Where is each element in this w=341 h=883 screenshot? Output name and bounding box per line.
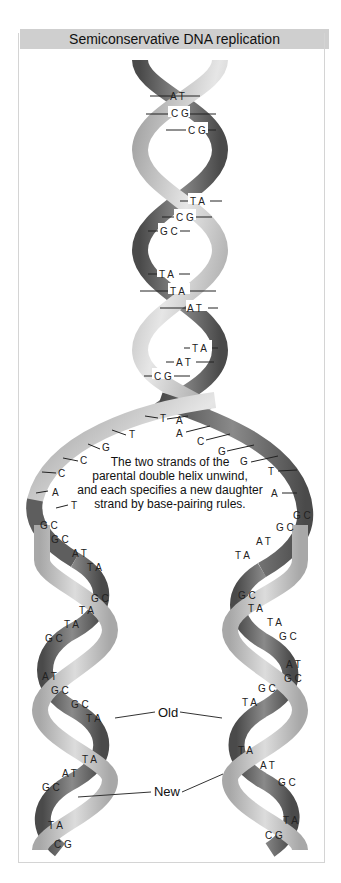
left-daughter-helix: G C G C A T T A G C T A T A G C A T G C … bbox=[40, 520, 110, 850]
base-pair: A T bbox=[170, 91, 185, 102]
base-pair: T A bbox=[86, 713, 101, 724]
base-pair: T A bbox=[248, 603, 263, 614]
base-pair: T A bbox=[48, 820, 63, 831]
base-pair: G C bbox=[160, 226, 178, 237]
base-pair: T A bbox=[87, 562, 102, 573]
base-pair: A T bbox=[256, 536, 271, 547]
base-pair: T A bbox=[64, 619, 79, 630]
base: C bbox=[80, 455, 87, 466]
base-pair: A T bbox=[62, 768, 77, 779]
parental-helix: A T C G C G T A C G G C T A T A A T bbox=[140, 60, 222, 410]
base-pair: T A bbox=[170, 286, 185, 297]
caption-line: The two strands of the bbox=[111, 455, 230, 469]
base-pair: C G bbox=[176, 212, 194, 223]
base-pair: G C bbox=[284, 673, 302, 684]
new-strand-label: New bbox=[154, 784, 181, 799]
base-pair: G C bbox=[258, 683, 276, 694]
base-pair: A T bbox=[72, 548, 87, 559]
base-pair: A T bbox=[176, 357, 191, 368]
base-pair: C G bbox=[54, 839, 72, 850]
base-pair: G C bbox=[51, 685, 69, 696]
base: T bbox=[71, 500, 77, 511]
base-pair: C G bbox=[171, 108, 189, 119]
base-pair: T A bbox=[267, 617, 282, 628]
caption-line: parental double helix unwind, bbox=[92, 469, 247, 483]
base: G bbox=[240, 456, 248, 467]
base-pair: T A bbox=[235, 550, 250, 561]
base-pair: A T bbox=[187, 303, 202, 314]
base: A bbox=[176, 415, 183, 426]
base-pair: G C bbox=[40, 520, 58, 531]
base-pair: G C bbox=[42, 782, 60, 793]
base: C bbox=[58, 468, 65, 479]
base: A bbox=[176, 428, 183, 439]
base-pair: G C bbox=[238, 590, 256, 601]
base-pair: C G bbox=[154, 371, 172, 382]
base: T bbox=[160, 413, 166, 424]
base: G bbox=[102, 442, 110, 453]
base-pair: T A bbox=[238, 745, 253, 756]
base-pair: T A bbox=[242, 697, 257, 708]
fork-caption: The two strands of the parental double h… bbox=[77, 455, 262, 511]
base-pair: A T bbox=[42, 671, 57, 682]
base-pair: G C bbox=[293, 510, 311, 521]
caption-line: strand by base-pairing rules. bbox=[94, 497, 245, 511]
base-pair: G C bbox=[276, 522, 294, 533]
base: A bbox=[52, 487, 59, 498]
base-pair: T A bbox=[192, 343, 207, 354]
old-strand-label: Old bbox=[158, 705, 178, 720]
dna-replication-diagram: A T C G C G T A C G G C T A T A A T bbox=[0, 0, 341, 883]
base: C bbox=[197, 436, 204, 447]
base-pair: T A bbox=[82, 754, 97, 765]
base-pair: T A bbox=[159, 269, 174, 280]
base-pair: C G bbox=[188, 125, 206, 136]
base-pair: T A bbox=[283, 815, 298, 826]
base-pair: G C bbox=[278, 777, 296, 788]
base: A bbox=[271, 488, 278, 499]
base-pair: T A bbox=[190, 196, 205, 207]
base-pair: G C bbox=[279, 631, 297, 642]
base-pair: G C bbox=[71, 699, 89, 710]
base-pair: T A bbox=[79, 605, 94, 616]
base-pair: G C bbox=[51, 534, 69, 545]
base-pair: G C bbox=[91, 593, 109, 604]
base-pair: G C bbox=[45, 633, 63, 644]
base: T bbox=[129, 429, 135, 440]
base-pair: A T bbox=[286, 659, 301, 670]
base: T bbox=[268, 466, 274, 477]
base-pair: A T bbox=[260, 760, 275, 771]
caption-line: and each specifies a new daughter bbox=[77, 483, 262, 497]
base-pair: C G bbox=[265, 830, 283, 841]
